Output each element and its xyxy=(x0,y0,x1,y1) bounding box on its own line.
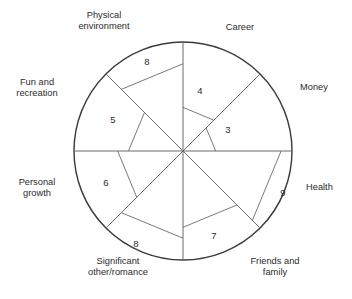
score-value-fun-recreation: 5 xyxy=(110,114,115,125)
axis-label-friends-and-family: Friends and family xyxy=(234,256,316,279)
score-value-career: 4 xyxy=(197,85,202,96)
axis-label-career: Career xyxy=(208,22,272,33)
score-value-physical-environment: 8 xyxy=(144,56,149,67)
score-value-money: 3 xyxy=(225,124,230,135)
axis-label-health: Health xyxy=(306,182,352,193)
axis-label-significant-other-romance: Significant other/romance xyxy=(66,256,170,279)
axis-label-money: Money xyxy=(300,82,350,93)
score-value-health: 9 xyxy=(280,187,285,198)
axis-label-physical-environment: Physical environment xyxy=(62,10,146,33)
score-value-significant-other: 8 xyxy=(133,238,138,249)
wheel-diagram: 43978658 xyxy=(0,0,352,299)
axis-label-fun-and-recreation: Fun and recreation xyxy=(6,77,68,100)
axis-label-personal-growth: Personal growth xyxy=(6,177,68,200)
wheel-of-life-figure: 43978658 Physical environment Career Mon… xyxy=(0,0,352,299)
score-value-personal-growth: 6 xyxy=(103,177,108,188)
score-value-friends-family: 7 xyxy=(211,230,216,241)
